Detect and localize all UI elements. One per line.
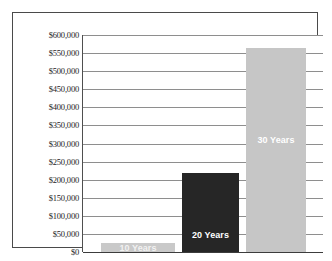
y-tick-label: $450,000 xyxy=(15,84,79,94)
y-tick-label: $0 xyxy=(15,247,79,257)
y-tick-label: $100,000 xyxy=(15,211,79,221)
y-axis-tick-labels: $600,000 $550,000 $500,000 $450,000 $400… xyxy=(13,35,79,252)
y-tick-label: $250,000 xyxy=(15,157,79,167)
y-tick-label: $550,000 xyxy=(15,48,79,58)
bar-30-years[interactable]: 30 Years xyxy=(246,48,306,252)
chart-outer-frame: $600,000 $550,000 $500,000 $450,000 $400… xyxy=(12,12,318,248)
y-tick-label: $500,000 xyxy=(15,66,79,76)
y-tick-label: $400,000 xyxy=(15,102,79,112)
y-tick-label: $150,000 xyxy=(15,193,79,203)
bar-label-10-years: 10 Years xyxy=(119,243,156,253)
y-tick-label: $200,000 xyxy=(15,175,79,185)
y-tick-label: $300,000 xyxy=(15,139,79,149)
bar-10-years[interactable]: 10 Years xyxy=(101,243,175,252)
bar-label-30-years: 30 Years xyxy=(257,135,294,145)
bar-label-20-years: 20 Years xyxy=(192,230,229,240)
gridline xyxy=(83,35,323,36)
y-tick-label: $600,000 xyxy=(15,30,79,40)
bar-chart-figure: $600,000 $550,000 $500,000 $450,000 $400… xyxy=(0,0,332,261)
bar-20-years[interactable]: 20 Years xyxy=(182,173,239,252)
y-tick-label: $50,000 xyxy=(15,229,79,239)
plot-area: 10 Years 20 Years 30 Years xyxy=(82,35,323,252)
y-tick-label: $350,000 xyxy=(15,120,79,130)
